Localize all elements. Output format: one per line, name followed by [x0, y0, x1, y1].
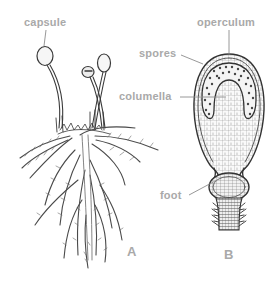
label-operculum: operculum	[197, 17, 255, 28]
label-spores: spores	[139, 48, 176, 59]
panel-letter-b: B	[224, 248, 233, 261]
moss-plant-drawing	[20, 47, 158, 269]
pseudopodium-stalk	[216, 198, 242, 230]
moss-stem	[82, 135, 92, 260]
panel-letter-a: A	[127, 245, 136, 258]
sporophyte-section-drawing	[194, 54, 264, 230]
right-sporophytes	[82, 54, 111, 130]
foot-bulb	[209, 173, 249, 201]
label-foot: foot	[160, 190, 182, 201]
label-capsule: capsule	[24, 17, 66, 28]
diagram-drawing	[0, 0, 280, 290]
columella	[215, 82, 243, 150]
leader-spores	[181, 55, 203, 64]
leader-capsule	[44, 30, 46, 46]
label-columella: columella	[119, 91, 172, 102]
left-sporophyte	[37, 47, 63, 133]
moss-diagram: capsule operculum spores columella foot …	[0, 0, 280, 290]
